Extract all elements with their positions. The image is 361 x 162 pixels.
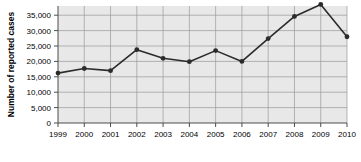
x-tick-label: 2008 [286, 130, 304, 139]
x-tick-label: 2000 [75, 130, 93, 139]
x-tick-label: 2007 [259, 130, 277, 139]
y-tick-label: 20,000 [27, 57, 52, 66]
x-tick-label: 1999 [49, 130, 67, 139]
y-tick-label: 35,000 [27, 11, 52, 20]
x-tick-label: 2010 [338, 130, 356, 139]
y-tick-label: 0 [47, 119, 52, 128]
data-point-marker [108, 68, 113, 73]
x-tick-label: 2004 [180, 130, 198, 139]
y-tick-label: 25,000 [27, 42, 52, 51]
data-point-marker [292, 14, 297, 19]
x-tick-label: 2003 [154, 130, 172, 139]
y-axis-ticks: 05,00010,00015,00020,00025,00030,00035,0… [27, 11, 58, 128]
y-tick-label: 30,000 [27, 27, 52, 36]
data-point-marker [187, 59, 192, 64]
data-point-marker [345, 34, 350, 39]
y-tick-label: 10,000 [27, 88, 52, 97]
x-tick-label: 2009 [312, 130, 330, 139]
x-axis-ticks: 1999200020012002200320042005200620072008… [49, 123, 356, 139]
data-point-marker [240, 59, 245, 64]
x-tick-label: 2006 [233, 130, 251, 139]
data-point-marker [161, 56, 166, 61]
plot-area-background [58, 6, 347, 123]
x-tick-label: 2002 [128, 130, 146, 139]
data-point-marker [56, 71, 61, 76]
line-chart: 05,00010,00015,00020,00025,00030,00035,0… [0, 0, 361, 162]
y-axis-title: Number of reported cases [6, 12, 16, 118]
data-point-marker [213, 48, 218, 53]
data-point-marker [266, 36, 271, 41]
y-tick-label: 15,000 [27, 73, 52, 82]
data-point-marker [134, 47, 139, 52]
x-tick-label: 2001 [102, 130, 120, 139]
data-point-marker [318, 2, 323, 7]
x-tick-label: 2005 [207, 130, 225, 139]
data-point-marker [82, 66, 87, 71]
chart-canvas: 05,00010,00015,00020,00025,00030,00035,0… [0, 0, 361, 162]
y-tick-label: 5,000 [31, 104, 52, 113]
